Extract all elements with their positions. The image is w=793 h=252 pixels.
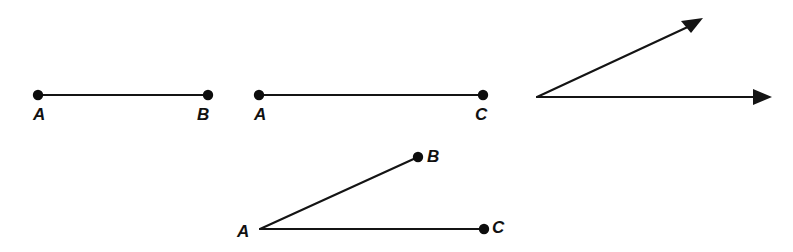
figure-angle-bac: A B C — [236, 147, 505, 241]
figure-segment-ac: A C — [253, 90, 488, 124]
vertex-label-a: A — [236, 222, 249, 241]
endpoint-dot-c — [479, 224, 489, 234]
point-label-c: C — [475, 105, 488, 124]
ray-upper-line — [537, 25, 692, 97]
point-label-b: B — [197, 105, 209, 124]
figure-segment-ab: A B — [32, 90, 213, 124]
point-label-b: B — [427, 147, 439, 166]
point-label-a: A — [32, 105, 45, 124]
endpoint-dot-b — [413, 152, 423, 162]
endpoint-dot-a — [33, 90, 43, 100]
point-label-a: A — [253, 105, 266, 124]
segment-ab-line — [260, 157, 418, 229]
point-label-c: C — [492, 218, 505, 237]
endpoint-dot-b — [203, 90, 213, 100]
geometry-figure-canvas: A B A C A B C — [0, 0, 793, 252]
endpoint-dot-c — [478, 90, 488, 100]
figure-angle-rays — [537, 18, 772, 105]
ray-lower-arrowhead-icon — [753, 89, 772, 105]
endpoint-dot-a — [254, 90, 264, 100]
ray-upper-arrowhead-icon — [681, 18, 703, 33]
